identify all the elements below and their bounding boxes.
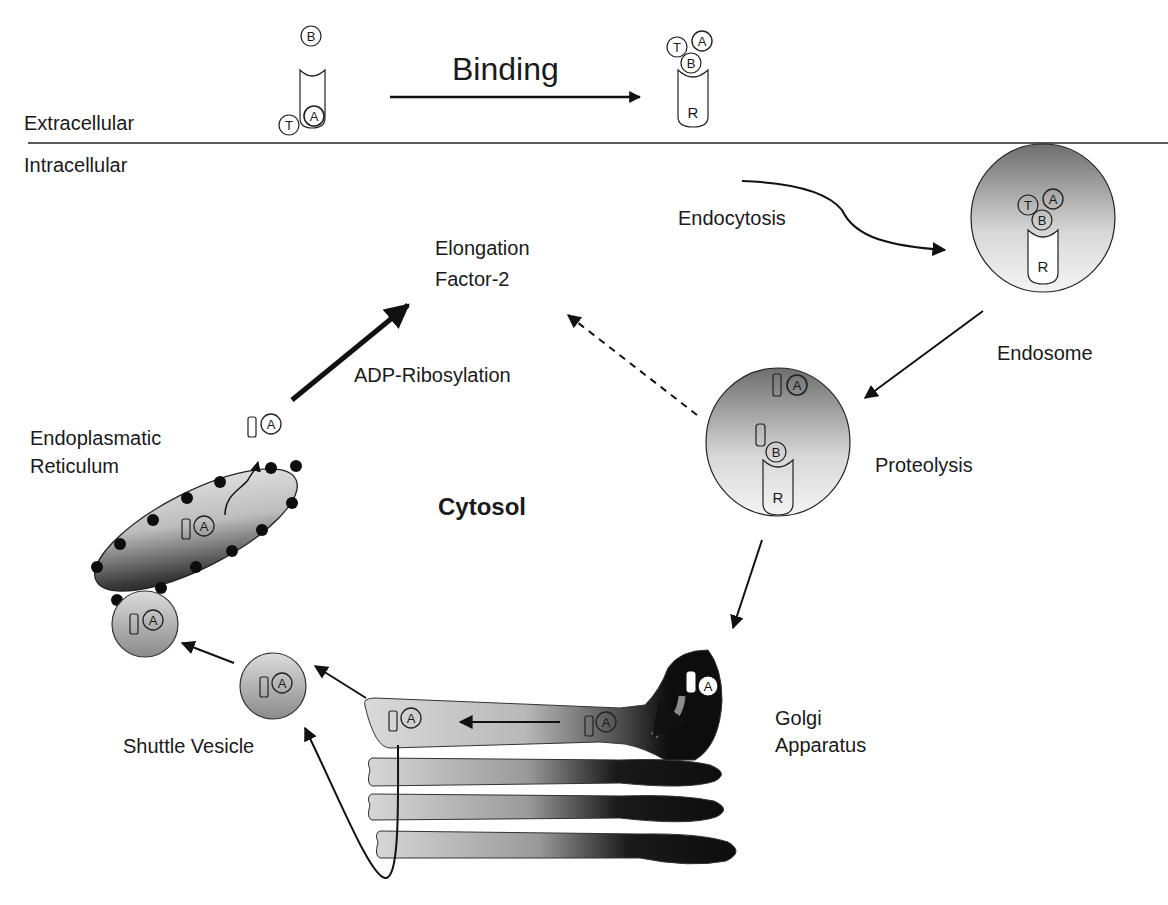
er-label-line1: Endoplasmatic bbox=[30, 427, 161, 449]
svg-text:R: R bbox=[1038, 258, 1049, 275]
svg-text:R: R bbox=[688, 104, 699, 121]
svg-text:B: B bbox=[307, 29, 316, 44]
bound-receptor-toxin: R T A B bbox=[667, 31, 712, 127]
shuttle-vesicle: A bbox=[240, 653, 306, 719]
svg-text:T: T bbox=[285, 118, 293, 133]
shuttle-vesicle-label: Shuttle Vesicle bbox=[123, 735, 254, 757]
svg-text:A: A bbox=[698, 34, 707, 49]
svg-text:B: B bbox=[687, 56, 696, 71]
intracellular-label: Intracellular bbox=[24, 154, 128, 176]
unbound-receptor-toxin: B T A bbox=[279, 26, 325, 135]
ef2-label-line1: Elongation bbox=[435, 237, 530, 259]
endosome: R T A B bbox=[971, 144, 1115, 292]
proteolysis-vesicle: R B A bbox=[706, 368, 850, 516]
svg-text:A: A bbox=[200, 519, 209, 534]
svg-text:T: T bbox=[1024, 198, 1032, 213]
proteolysis-label: Proteolysis bbox=[875, 454, 973, 476]
golgi-cisternae bbox=[368, 758, 736, 864]
direct-route-dashed-arrow bbox=[568, 315, 697, 415]
svg-text:A: A bbox=[149, 613, 158, 628]
er-label-line2: Reticulum bbox=[30, 455, 119, 477]
golgi-label-line2: Apparatus bbox=[775, 734, 866, 756]
svg-text:A: A bbox=[602, 715, 611, 730]
svg-text:B: B bbox=[772, 445, 781, 460]
ef2-label-line2: Factor-2 bbox=[435, 268, 509, 290]
golgi-label-line1: Golgi bbox=[775, 707, 822, 729]
released-toxin-a: A bbox=[248, 414, 281, 437]
toxin-pathway-diagram: Extracellular Intracellular B T A Bindin… bbox=[0, 0, 1168, 905]
endocytosis-label: Endocytosis bbox=[678, 207, 786, 229]
svg-text:B: B bbox=[1038, 213, 1047, 228]
cytosol-label: Cytosol bbox=[438, 493, 526, 520]
lysosome-to-golgi-arrow bbox=[733, 540, 762, 628]
er-fusing-vesicle: A bbox=[112, 591, 178, 657]
svg-text:A: A bbox=[793, 378, 802, 393]
svg-text:R: R bbox=[773, 489, 784, 506]
golgi-main-cisterna: A A A bbox=[364, 650, 722, 760]
svg-text:A: A bbox=[407, 711, 416, 726]
endosome-label: Endosome bbox=[997, 342, 1093, 364]
adp-ribosylation-label: ADP-Ribosylation bbox=[354, 364, 511, 386]
golgi-to-shuttle-arrow bbox=[315, 666, 366, 698]
svg-text:T: T bbox=[673, 40, 681, 55]
extracellular-label: Extracellular bbox=[24, 112, 134, 134]
svg-text:A: A bbox=[704, 679, 713, 694]
binding-label: Binding bbox=[452, 51, 559, 87]
svg-text:A: A bbox=[278, 676, 287, 691]
endosome-to-lysosome-arrow bbox=[865, 311, 983, 398]
shuttle-to-er-arrow bbox=[182, 643, 234, 663]
svg-text:A: A bbox=[267, 417, 276, 432]
svg-text:A: A bbox=[1049, 192, 1058, 207]
svg-text:A: A bbox=[310, 109, 319, 124]
